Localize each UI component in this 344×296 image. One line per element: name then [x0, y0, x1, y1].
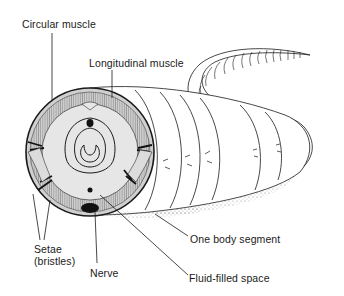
- ventral-vessel: [88, 188, 93, 193]
- label-circular-muscle: Circular muscle: [22, 18, 96, 30]
- earthworm-diagram: Circular muscle Longitudinal muscle Seta…: [0, 0, 344, 296]
- cross-section: [26, 88, 154, 216]
- dorsal-vessel: [87, 119, 94, 127]
- label-fluid-filled-space: Fluid-filled space: [189, 272, 270, 284]
- label-setae: Setae: [34, 243, 62, 255]
- nerve-cord: [81, 203, 99, 213]
- label-one-body-segment: One body segment: [190, 233, 280, 245]
- label-setae-bristles: (bristles): [34, 255, 75, 267]
- label-nerve: Nerve: [90, 267, 119, 279]
- label-longitudinal-muscle: Longitudinal muscle: [89, 57, 184, 69]
